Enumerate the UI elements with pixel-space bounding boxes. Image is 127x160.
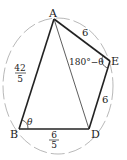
vertex-label-A: A xyxy=(48,7,58,20)
side-label-AE: 6 xyxy=(82,27,88,38)
side-label-ED: 6 xyxy=(102,94,108,105)
angle-label-B: θ xyxy=(27,117,33,127)
vertex-label-D: D xyxy=(91,128,100,141)
side-label-AB: 42 5 xyxy=(14,63,26,84)
edge-AB xyxy=(19,19,54,129)
vertex-label-B: B xyxy=(10,128,18,141)
fraction-denominator: 5 xyxy=(17,74,23,84)
fraction-numerator: 6 xyxy=(51,130,57,140)
fraction-denominator: 5 xyxy=(51,140,57,150)
fraction-numerator: 42 xyxy=(14,63,25,73)
side-label-BD: 6 5 xyxy=(49,130,59,150)
edge-AE xyxy=(54,19,110,61)
vertex-label-E: E xyxy=(111,55,119,68)
cyclic-quadrilateral-diagram: A E D B 42 5 6 6 6 5 θ 180°−θ xyxy=(0,0,127,160)
angle-label-E: 180°−θ xyxy=(69,57,104,67)
